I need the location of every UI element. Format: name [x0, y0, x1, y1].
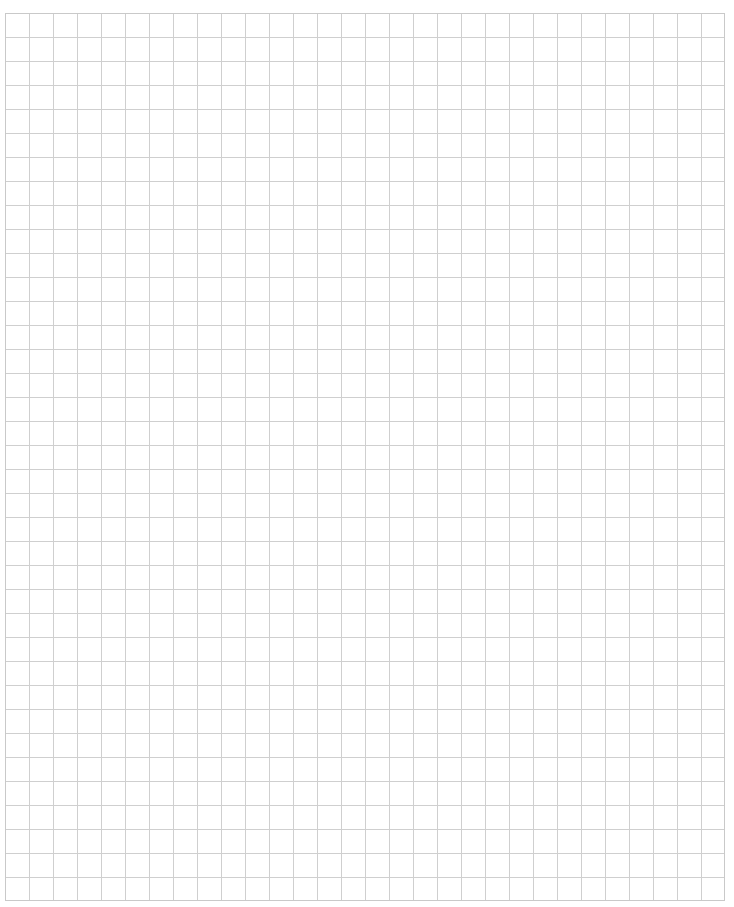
graph-paper-page — [0, 0, 734, 907]
page-number-mark — [385, 0, 395, 4]
square-grid — [5, 13, 725, 901]
